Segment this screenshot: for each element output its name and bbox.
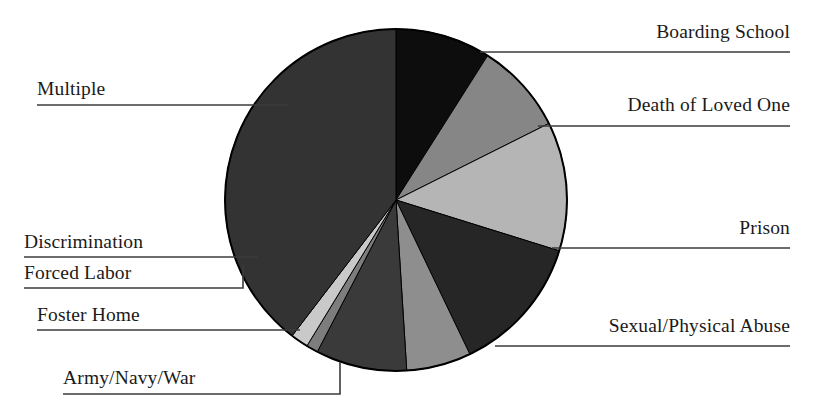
pie-chart-figure [0,0,817,415]
slice-label-death-of-loved-one: Death of Loved One [450,95,790,115]
slice-label-multiple: Multiple [37,79,105,99]
slice-label-foster-home: Foster Home [37,305,140,325]
slice-label-boarding-school: Boarding School [450,22,790,42]
slice-label-sexual-physical-abuse: Sexual/Physical Abuse [450,316,790,336]
slice-label-discrimination: Discrimination [24,232,143,252]
slice-label-prison: Prison [450,218,790,238]
slice-label-army-navy-war: Army/Navy/War [63,368,196,388]
slice-label-forced-labor: Forced Labor [24,263,131,283]
